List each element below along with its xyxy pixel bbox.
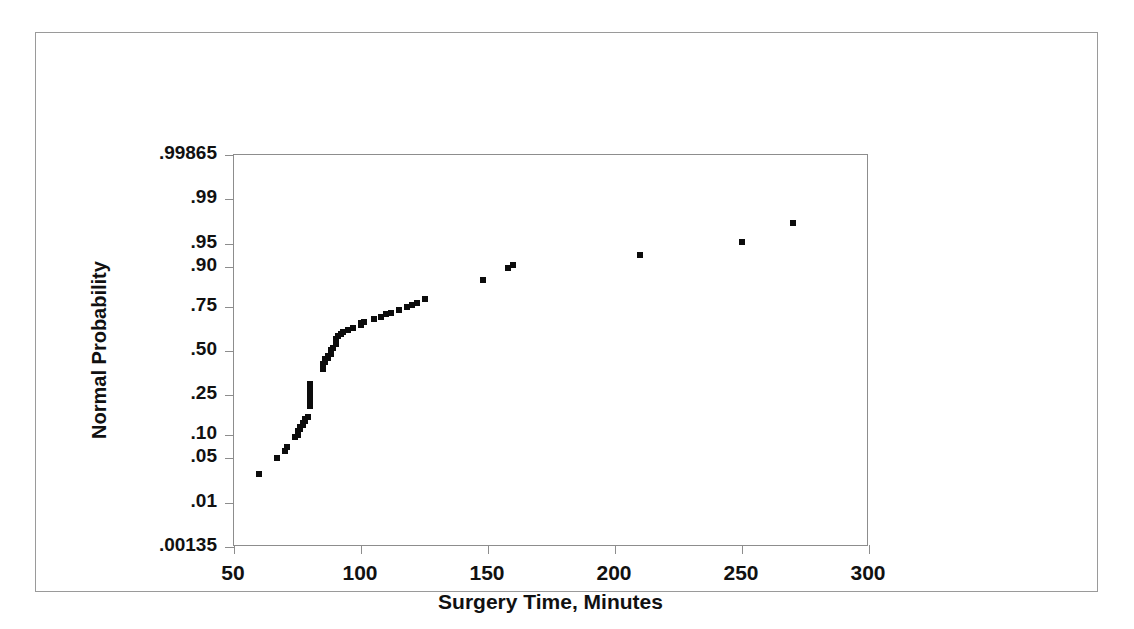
y-tick-label: .05 (36, 446, 217, 465)
y-tick-mark (225, 244, 234, 245)
y-tick-mark (225, 435, 234, 436)
data-point (414, 300, 420, 306)
y-tick-mark (225, 395, 234, 396)
y-tick-mark (225, 503, 234, 504)
data-point (361, 319, 367, 325)
x-tick-mark (488, 545, 489, 554)
x-tick-mark (615, 545, 616, 554)
x-tick-mark (234, 545, 235, 554)
figure-outer-frame: Normal Probability Surgery Time, Minutes… (35, 32, 1098, 592)
y-tick-mark (225, 351, 234, 352)
x-tick-mark (361, 545, 362, 554)
y-tick-label: .10 (36, 423, 217, 442)
data-point (284, 444, 290, 450)
data-point (637, 252, 643, 258)
data-point (480, 277, 486, 283)
y-tick-label: .95 (36, 232, 217, 251)
x-axis-title: Surgery Time, Minutes (233, 590, 868, 614)
x-tick-mark (869, 545, 870, 554)
y-tick-mark (225, 267, 234, 268)
x-tick-mark (742, 545, 743, 554)
x-tick-label: 250 (691, 562, 791, 583)
y-tick-mark (225, 547, 234, 548)
data-point (790, 220, 796, 226)
y-tick-mark (225, 307, 234, 308)
data-point (422, 296, 428, 302)
y-tick-label: .25 (36, 383, 217, 402)
data-point (739, 239, 745, 245)
data-point (350, 325, 356, 331)
figure-page: Normal Probability Surgery Time, Minutes… (0, 0, 1134, 629)
data-point (256, 471, 262, 477)
y-tick-label: .01 (36, 491, 217, 510)
data-point (305, 414, 311, 420)
x-tick-label: 50 (183, 562, 283, 583)
y-tick-label: .75 (36, 295, 217, 314)
data-point (388, 310, 394, 316)
data-point (510, 262, 516, 268)
y-tick-mark (225, 458, 234, 459)
y-tick-label: .50 (36, 339, 217, 358)
data-point (274, 455, 280, 461)
y-tick-label: .90 (36, 255, 217, 274)
y-tick-label: .00135 (36, 535, 217, 554)
data-point (371, 316, 377, 322)
plot-area (233, 154, 868, 546)
data-point (396, 307, 402, 313)
data-point (307, 381, 313, 387)
y-tick-label: .99 (36, 187, 217, 206)
x-tick-label: 300 (818, 562, 918, 583)
y-tick-mark (225, 199, 234, 200)
x-tick-label: 200 (564, 562, 664, 583)
x-tick-label: 150 (437, 562, 537, 583)
y-tick-mark (225, 155, 234, 156)
x-tick-label: 100 (310, 562, 410, 583)
y-tick-label: .99865 (36, 143, 217, 162)
